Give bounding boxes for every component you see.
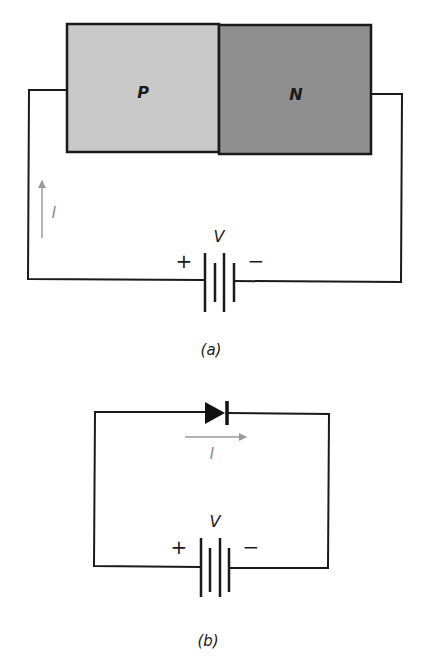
battery-voltage-label: V xyxy=(210,512,222,531)
battery-plus-sign: + xyxy=(176,249,193,273)
figure-b: I V + − (b) xyxy=(94,401,329,650)
battery-b xyxy=(201,538,229,597)
battery-minus-sign: − xyxy=(248,249,265,273)
n-region-label: N xyxy=(289,85,303,104)
battery-minus-sign: − xyxy=(243,535,260,559)
wire-top-left xyxy=(94,412,206,567)
figure-a-caption: (a) xyxy=(201,341,222,359)
current-label: I xyxy=(210,445,215,463)
battery-plus-sign: + xyxy=(171,535,188,559)
current-label: I xyxy=(52,204,57,222)
diode-forward-bias-figure: P N V + − I (a) I xyxy=(0,0,423,670)
diode-icon xyxy=(205,401,227,425)
p-region-label: P xyxy=(137,83,149,102)
figure-b-caption: (b) xyxy=(197,632,218,650)
figure-a: P N V + − I (a) xyxy=(28,24,402,359)
battery-a xyxy=(205,253,234,312)
battery-voltage-label: V xyxy=(214,227,226,246)
